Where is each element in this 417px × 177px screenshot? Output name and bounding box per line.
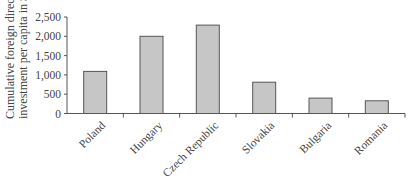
y-tick-label: 500 [44,88,61,100]
bar-czech-republic [196,25,219,113]
bar-hungary [140,36,163,113]
y-tick-label: 1,000 [35,69,61,81]
bar-chart: Cumulative foreign direct investment per… [0,0,417,177]
bar-romania [365,101,388,114]
y-tick-label: 2,500 [35,11,61,23]
bar-slovakia [253,82,276,113]
y-tick-label: 0 [55,108,61,120]
bar-bulgaria [309,98,332,113]
y-tick-label: 2,000 [35,30,61,42]
bar-poland [84,71,107,113]
y-tick-label: 1,500 [35,50,61,62]
